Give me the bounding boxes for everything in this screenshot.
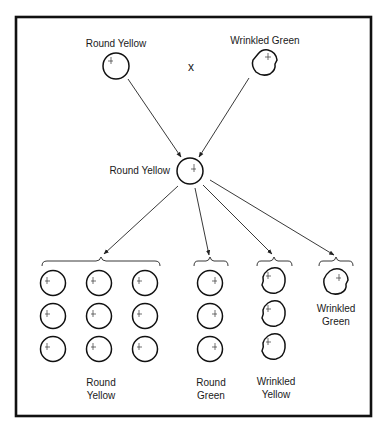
- parent-1-label: Round Yellow: [86, 38, 147, 49]
- pea-wrinkled: [262, 268, 285, 293]
- group-wrinkled-yellow-label-line2: Yellow: [262, 389, 291, 400]
- group-round-yellow-label-line1: Round: [86, 377, 115, 388]
- f1-label: Round Yellow: [109, 165, 170, 176]
- group-wrinkled-green-label-line1: Wrinkled: [317, 303, 356, 314]
- parent-2-label: Wrinkled Green: [230, 35, 299, 46]
- arrow-f1-to-wrinkled-green: [210, 180, 334, 255]
- f1-pea-round: [177, 158, 203, 184]
- pea-round: [198, 337, 223, 362]
- pea-round: [41, 271, 66, 296]
- pea-wrinkled: [262, 301, 285, 326]
- arrow-parent2-to-f1: [199, 78, 249, 157]
- pea-round: [41, 337, 66, 362]
- pea-round: [198, 304, 223, 329]
- arrow-f1-to-round-yellow: [104, 186, 178, 254]
- pea-round: [87, 337, 112, 362]
- group-round-green-label-line2: Green: [197, 390, 225, 401]
- diagram-frame: [16, 17, 371, 416]
- pea-round: [87, 271, 112, 296]
- group-round-green-label-line1: Round: [196, 377, 225, 388]
- pea-round: [133, 337, 158, 362]
- brace-round-yellow: [42, 257, 160, 266]
- arrow-f1-to-round-green: [195, 188, 209, 255]
- arrow-f1-to-wrinkled-yellow: [203, 185, 272, 254]
- group-round-yellow: [41, 271, 158, 362]
- arrow-parent1-to-f1: [128, 79, 181, 157]
- group-round-yellow-label-line2: Yellow: [87, 390, 116, 401]
- pea-round: [198, 271, 223, 296]
- cross-symbol: x: [188, 60, 194, 74]
- pea-round: [41, 304, 66, 329]
- pea-wrinkled: [262, 334, 285, 359]
- parent-1-pea-round: [103, 53, 129, 79]
- pea-round: [87, 304, 112, 329]
- group-round-green: [198, 271, 223, 362]
- group-wrinkled-yellow-label-line1: Wrinkled: [257, 376, 296, 387]
- pea-round: [133, 304, 158, 329]
- pea-round: [133, 271, 158, 296]
- group-wrinkled-green-label-line2: Green: [322, 316, 350, 327]
- brace-wrinkled-green: [319, 257, 353, 266]
- parent-2-pea-wrinkled: [252, 50, 277, 75]
- brace-wrinkled-yellow: [257, 257, 292, 266]
- brace-round-green: [194, 257, 228, 266]
- pea-wrinkled: [324, 269, 348, 294]
- group-wrinkled-yellow: [262, 268, 285, 359]
- group-wrinkled-green: [324, 269, 348, 294]
- dihybrid-cross-diagram: Round Yellow Wrinkled Green x Round Yell…: [0, 0, 387, 429]
